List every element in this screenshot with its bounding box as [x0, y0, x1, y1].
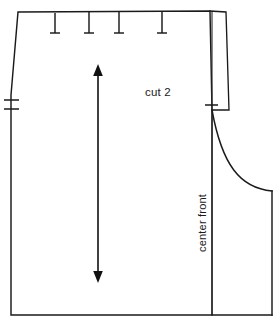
center-front-label: center front	[196, 194, 208, 252]
dart-leg-mark-icon	[157, 12, 167, 33]
bodice-body-outline	[11, 11, 212, 315]
pattern-drawing-canvas: cut 2 center front	[0, 0, 278, 328]
grainline-double-arrow-icon	[93, 64, 103, 283]
dart-leg-mark-icon	[50, 13, 60, 33]
armhole-curve	[212, 110, 272, 191]
pattern-diagram: cut 2 center front	[0, 0, 278, 328]
dart-leg-mark-icon	[114, 12, 124, 33]
cut-quantity-label: cut 2	[145, 86, 171, 98]
dart-leg-mark-icon	[84, 12, 94, 33]
front-facing-extension	[210, 11, 229, 110]
dart-leg-mark-icon-group	[50, 12, 167, 33]
